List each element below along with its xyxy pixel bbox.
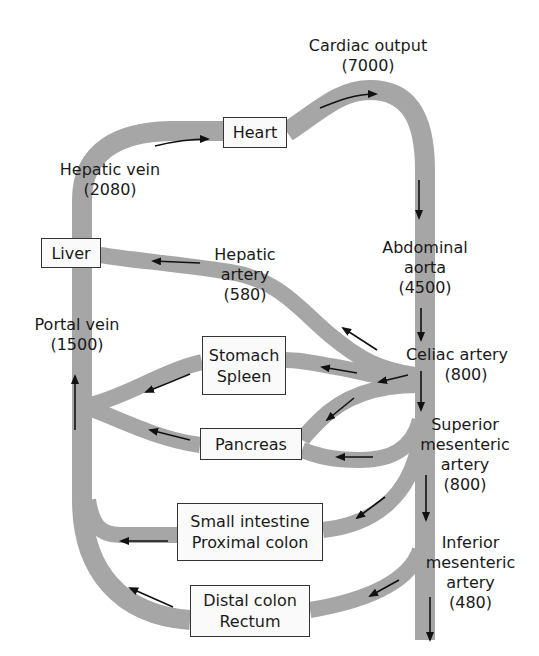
ima-name-1: Inferior: [408, 533, 533, 553]
abdominal-aorta-name-1: Abdominal: [365, 238, 485, 258]
celiac-to-pancreas-artery: [302, 385, 418, 440]
ima-name-2: mesenteric: [408, 553, 533, 573]
hepatic-artery-flow: (580): [205, 285, 285, 305]
pancreas-vein: [90, 408, 200, 445]
celiac-artery-flow: (800): [392, 365, 522, 385]
organ-rectum-label: Rectum: [219, 611, 280, 632]
hepatic-vein-flow: (2080): [50, 180, 170, 200]
organ-pancreas: Pancreas: [200, 428, 302, 460]
abdominal-aorta-name-2: aorta: [365, 258, 485, 278]
hepatic-artery-label: Hepatic artery (580): [205, 245, 285, 305]
organ-liver-label: Liver: [51, 243, 90, 264]
stomach-spleen-vein: [90, 362, 202, 405]
hepatic-artery-name-1: Hepatic: [205, 245, 285, 265]
organ-proximal-colon-label: Proximal colon: [192, 532, 309, 553]
portal-vein-label: Portal vein (1500): [22, 315, 132, 355]
superior-mesenteric-label: Superior mesenteric artery (800): [410, 415, 520, 495]
hepatic-artery-name-2: artery: [205, 265, 285, 285]
hepatic-vein-label: Hepatic vein (2080): [50, 160, 170, 200]
celiac-artery-label: Celiac artery (800): [392, 345, 522, 385]
organ-distal-colon-label: Distal colon: [203, 590, 297, 611]
organ-distal-colon: Distal colon Rectum: [190, 585, 310, 637]
celiac-artery-name: Celiac artery: [392, 345, 522, 365]
portal-vein-flow: (1500): [22, 335, 132, 355]
abdominal-aorta-flow: (4500): [365, 278, 485, 298]
inferior-mesenteric-label: Inferior mesenteric artery (480): [408, 533, 533, 613]
cardiac-output-name: Cardiac output: [298, 36, 438, 56]
organ-liver: Liver: [41, 238, 101, 268]
sma-name-3: artery: [410, 455, 520, 475]
organ-pancreas-label: Pancreas: [215, 434, 287, 455]
abdominal-aorta-label: Abdominal aorta (4500): [365, 238, 485, 298]
sma-name-2: mesenteric: [410, 435, 520, 455]
cardiac-output-label: Cardiac output (7000): [298, 36, 438, 76]
hepatic-vein-name: Hepatic vein: [50, 160, 170, 180]
organ-spleen-label: Spleen: [217, 366, 272, 387]
organ-small-intestine-label: Small intestine: [190, 511, 309, 532]
cardiac-output-flow: (7000): [298, 56, 438, 76]
sma-name-1: Superior: [410, 415, 520, 435]
portal-vein-name: Portal vein: [22, 315, 132, 335]
organ-heart-label: Heart: [233, 122, 278, 143]
small-intestine-vein: [88, 500, 177, 535]
sma-flow: (800): [410, 475, 520, 495]
organ-stomach-label: Stomach: [209, 345, 280, 366]
ima-name-3: artery: [408, 573, 533, 593]
ima-flow: (480): [408, 593, 533, 613]
organ-small-intestine: Small intestine Proximal colon: [177, 503, 323, 561]
ima-to-distal-colon-artery: [310, 550, 420, 610]
organ-stomach-spleen: Stomach Spleen: [202, 336, 286, 395]
organ-heart: Heart: [223, 117, 287, 148]
